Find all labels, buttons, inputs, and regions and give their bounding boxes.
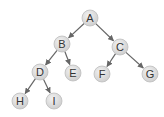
node-label: G <box>146 68 155 80</box>
node-e: E <box>65 65 81 81</box>
node-b: B <box>54 36 70 52</box>
edge-a-b <box>69 23 85 37</box>
edge-c-g <box>126 52 143 68</box>
edge-a-c <box>96 24 114 41</box>
edge-d-i <box>43 79 50 93</box>
node-label: C <box>116 41 124 53</box>
edge-b-d <box>46 50 57 65</box>
node-d: D <box>32 64 48 80</box>
node-label: B <box>58 38 65 50</box>
edges-layer <box>25 23 143 93</box>
edge-c-f <box>107 54 116 67</box>
node-label: A <box>86 12 94 24</box>
node-g: G <box>142 66 158 82</box>
node-f: F <box>94 66 110 82</box>
node-c: C <box>112 39 128 55</box>
node-a: A <box>82 10 98 26</box>
node-label: F <box>99 68 106 80</box>
node-label: E <box>69 67 76 79</box>
node-label: D <box>36 66 44 78</box>
edge-b-e <box>65 51 70 64</box>
node-h: H <box>12 93 28 109</box>
node-label: I <box>52 95 55 107</box>
nodes-layer: ABCDEFGHI <box>12 10 158 109</box>
edge-d-h <box>25 79 35 94</box>
tree-diagram: ABCDEFGHI <box>0 0 164 117</box>
node-label: H <box>16 95 24 107</box>
node-i: I <box>46 93 62 109</box>
